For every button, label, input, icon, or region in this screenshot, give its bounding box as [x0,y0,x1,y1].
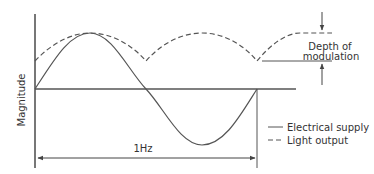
light-output-curve [35,33,332,61]
legend-label-light: Light output [287,135,348,146]
legend: Electrical supply Light output [268,122,369,146]
modulation-diagram: Depth of modulation 1Hz Magnitude Electr… [0,0,374,174]
legend-label-electrical: Electrical supply [287,122,369,133]
y-axis-label: Magnitude [16,74,27,127]
depth-label-line2: modulation [303,51,360,62]
period-label: 1Hz [133,143,152,154]
